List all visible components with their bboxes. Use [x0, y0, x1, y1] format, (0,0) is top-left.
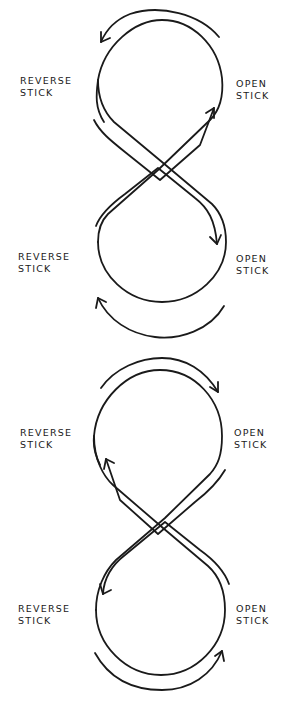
label-line: Reverse: [18, 603, 70, 615]
label-line: Stick: [236, 265, 270, 277]
label-line: Open: [234, 427, 268, 439]
figure-1-paths: [94, 10, 226, 337]
figure-1-bottom-arc-arrow: [98, 298, 224, 338]
figure-2-bottom-arc-arrow: [95, 651, 222, 690]
label-line: Stick: [18, 263, 70, 275]
figure-eight-paths: [0, 0, 287, 703]
label-line: Stick: [236, 615, 270, 627]
label-line: Stick: [20, 87, 72, 99]
figure-2-bottom-loop: [94, 436, 225, 675]
label-line: Open: [236, 78, 270, 90]
label-line: Open: [236, 253, 270, 265]
label-reverse-stick: Reverse Stick: [20, 75, 72, 99]
label-line: Stick: [18, 615, 70, 627]
figure-1-crossing-down-arrow: [96, 168, 217, 244]
label-reverse-stick: Reverse Stick: [18, 251, 70, 275]
label-open-stick: Open Stick: [236, 253, 270, 277]
figure-eight-diagram: Reverse Stick Open Stick Reverse Stick O…: [0, 0, 287, 703]
figure-2-paths: [94, 358, 229, 690]
label-line: Stick: [236, 90, 270, 102]
label-line: Stick: [20, 439, 72, 451]
label-open-stick: Open Stick: [236, 78, 270, 102]
label-line: Reverse: [18, 251, 70, 263]
figure-2-crossing-down-arrow: [103, 522, 229, 594]
label-reverse-stick: Reverse Stick: [18, 603, 70, 627]
label-reverse-stick: Reverse Stick: [20, 427, 72, 451]
label-line: Open: [236, 603, 270, 615]
label-line: Stick: [234, 439, 268, 451]
figure-2-top-loop: [94, 370, 222, 610]
arrowhead-icon: [100, 584, 111, 594]
label-open-stick: Open Stick: [234, 427, 268, 451]
figure-1-top-loop: [97, 20, 223, 242]
label-line: Reverse: [20, 427, 72, 439]
label-line: Reverse: [20, 75, 72, 87]
label-open-stick: Open Stick: [236, 603, 270, 627]
